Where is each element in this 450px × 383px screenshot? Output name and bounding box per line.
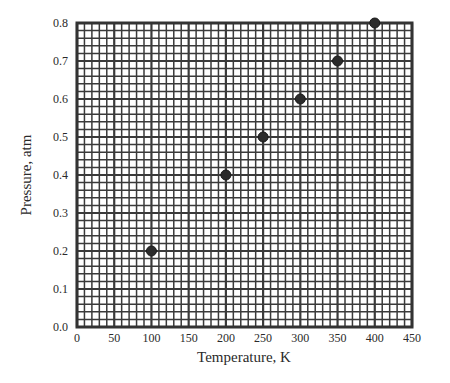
y-tick-label: 0.3: [53, 206, 68, 220]
y-tick-label: 0.1: [53, 282, 68, 296]
chart-plot: 050100150200250300350400450 0.00.10.20.3…: [0, 0, 450, 383]
data-point: [258, 132, 268, 142]
data-point: [295, 94, 305, 104]
y-tick-label: 0.2: [53, 244, 68, 258]
x-tick-label: 350: [329, 331, 347, 345]
y-axis-ticks: 0.00.10.20.30.40.50.60.70.8: [53, 16, 68, 334]
data-point: [146, 246, 156, 256]
y-tick-label: 0.0: [53, 320, 68, 334]
x-tick-label: 0: [74, 331, 80, 345]
data-point: [333, 56, 343, 66]
x-tick-label: 150: [180, 331, 198, 345]
data-point: [221, 170, 231, 180]
x-tick-label: 200: [217, 331, 235, 345]
x-tick-label: 100: [142, 331, 160, 345]
y-axis-label: Pressure, atm: [18, 134, 34, 215]
x-tick-label: 300: [291, 331, 309, 345]
x-tick-label: 400: [366, 331, 384, 345]
y-tick-label: 0.6: [53, 92, 68, 106]
x-tick-label: 450: [403, 331, 421, 345]
chart: 050100150200250300350400450 0.00.10.20.3…: [0, 0, 450, 383]
x-tick-label: 250: [254, 331, 272, 345]
x-tick-label: 50: [108, 331, 120, 345]
x-axis-label: Temperature, K: [197, 349, 291, 365]
y-tick-label: 0.7: [53, 54, 68, 68]
y-tick-label: 0.5: [53, 130, 68, 144]
y-tick-label: 0.4: [53, 168, 68, 182]
grid: [77, 23, 412, 327]
data-point: [370, 18, 380, 28]
y-tick-label: 0.8: [53, 16, 68, 30]
x-axis-ticks: 050100150200250300350400450: [74, 331, 421, 345]
